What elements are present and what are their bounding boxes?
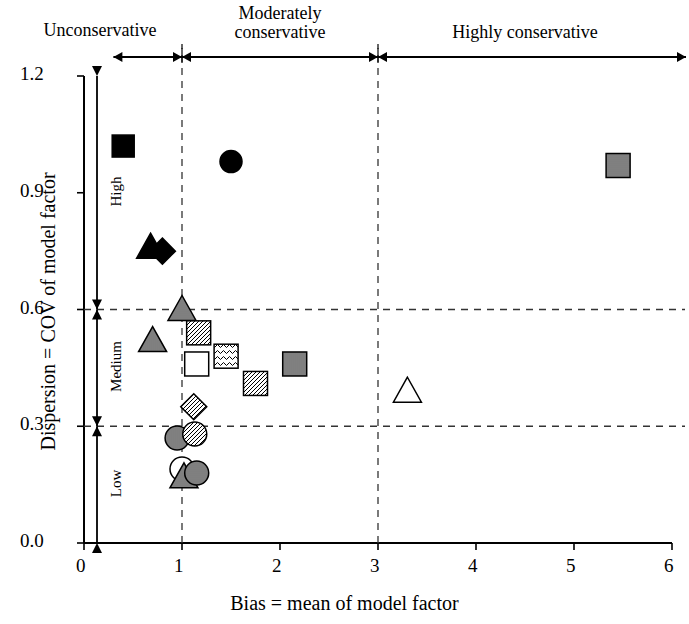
marker-triangle-p6 bbox=[168, 296, 196, 321]
zone-label-unconservative: Unconservative bbox=[20, 20, 180, 41]
marker-square-p12 bbox=[244, 371, 268, 395]
y-axis-title: Dispersion = COV of model factor bbox=[37, 52, 60, 572]
x-axis-title: Bias = mean of model factor bbox=[0, 592, 689, 615]
band-arrow-head bbox=[92, 543, 102, 553]
band-arrow-head bbox=[92, 300, 102, 310]
arrow-head bbox=[369, 52, 378, 62]
marker-triangle-p7 bbox=[139, 327, 167, 352]
x-tick-label-6: 6 bbox=[664, 555, 674, 577]
marker-square-p3 bbox=[606, 154, 630, 178]
band-label-medium: Medium bbox=[108, 326, 125, 406]
x-tick-label-1: 1 bbox=[174, 555, 184, 577]
marker-square-p9 bbox=[214, 344, 238, 368]
marker-circle-p2 bbox=[220, 151, 242, 173]
x-tick-label-4: 4 bbox=[468, 555, 478, 577]
band-label-high: High bbox=[108, 151, 125, 231]
zone-label-line-2: conservative bbox=[200, 23, 360, 42]
plot-canvas bbox=[0, 0, 689, 624]
x-tick-label-2: 2 bbox=[272, 555, 282, 577]
band-label-low: Low bbox=[108, 443, 125, 523]
arrow-head bbox=[677, 52, 686, 62]
band-arrow-head bbox=[92, 66, 102, 76]
band-arrow-head bbox=[92, 416, 102, 426]
marker-circle-p16 bbox=[183, 422, 207, 446]
marker-diamond-p14 bbox=[181, 394, 207, 420]
x-tick-label-0: 0 bbox=[76, 555, 86, 577]
arrow-head bbox=[173, 52, 182, 62]
x-tick-label-5: 5 bbox=[566, 555, 576, 577]
arrow-head bbox=[378, 52, 387, 62]
marker-square-p10 bbox=[185, 352, 209, 376]
zone-label-highly-conservative: Highly conservative bbox=[430, 22, 620, 43]
marker-circle-p19 bbox=[185, 461, 209, 485]
zone-label-line-1: Moderately bbox=[200, 4, 360, 23]
arrow-head bbox=[113, 52, 122, 62]
marker-triangle-p13 bbox=[393, 377, 421, 402]
scatter-plot-figure: 01234560.00.30.60.91.2Bias = mean of mod… bbox=[0, 0, 689, 624]
marker-square-p8 bbox=[187, 321, 211, 345]
x-tick-label-3: 3 bbox=[370, 555, 380, 577]
zone-label-moderately-conservative: Moderatelyconservative bbox=[200, 4, 360, 43]
arrow-head bbox=[182, 52, 191, 62]
marker-square-p11 bbox=[283, 352, 307, 376]
